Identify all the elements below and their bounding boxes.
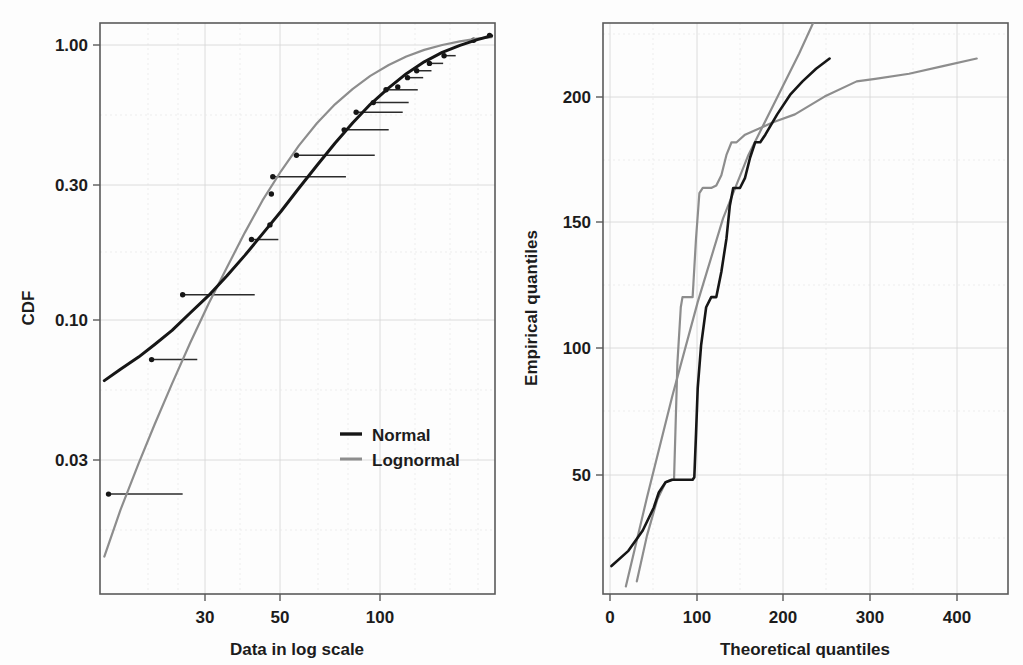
qq-ytick-1: 200 xyxy=(563,88,591,107)
ecdf-point xyxy=(270,174,275,179)
cdf-legend: Normal Lognormal xyxy=(340,426,460,470)
cdf-plot-frame xyxy=(100,23,495,594)
cdf-xtick-2: 50 xyxy=(271,608,290,627)
qq-xtick-4: 300 xyxy=(856,608,884,627)
cdf-yaxis-title: CDF xyxy=(19,291,38,326)
cdf-ytick-3: 0.10 xyxy=(55,311,88,330)
qq-ytick-2: 150 xyxy=(563,213,591,232)
qq-ytick-3: 100 xyxy=(563,339,591,358)
ecdf-point xyxy=(269,191,274,196)
qq-yaxis-title: Empirical quantiles xyxy=(522,230,541,386)
cdf-normal-curve xyxy=(104,36,491,381)
cdf-empirical-steps xyxy=(106,33,492,497)
legend-label-lognormal: Lognormal xyxy=(372,451,460,470)
cdf-minor-gridlines xyxy=(148,23,478,594)
qq-ytick-4: 50 xyxy=(572,466,591,485)
cdf-plot-svg: 1.00 0.30 0.10 0.03 30 50 100 Data in lo… xyxy=(0,0,511,665)
cdf-lognormal-curve xyxy=(104,37,491,556)
ecdf-point xyxy=(353,110,358,115)
legend-label-normal: Normal xyxy=(372,426,431,445)
qq-xtick-5: 400 xyxy=(943,608,971,627)
ecdf-point xyxy=(180,292,185,297)
cdf-ytick-2: 0.30 xyxy=(55,176,88,195)
cdf-y-tickmarks xyxy=(93,45,100,460)
cdf-x-tickmarks xyxy=(205,594,380,601)
qq-y-tickmarks xyxy=(596,97,603,475)
cdf-ytick-4: 0.03 xyxy=(55,451,88,470)
cdf-xtick-1: 30 xyxy=(196,608,215,627)
cdf-xaxis-title: Data in log scale xyxy=(230,640,364,659)
qq-lognormal-curve xyxy=(637,59,977,582)
figure-container: 1.00 0.30 0.10 0.03 30 50 100 Data in lo… xyxy=(0,0,1023,665)
qq-normal-curve xyxy=(611,59,829,567)
ecdf-point xyxy=(106,491,111,496)
ecdf-point xyxy=(395,84,400,89)
ecdf-point xyxy=(249,237,254,242)
panel-qq: 200 150 100 50 0 100 200 300 400 Theoret… xyxy=(511,0,1023,665)
qq-xtick-1: 0 xyxy=(605,608,614,627)
qq-xtick-3: 200 xyxy=(769,608,797,627)
cdf-ytick-1: 1.00 xyxy=(55,36,88,55)
cdf-xtick-3: 100 xyxy=(366,608,394,627)
panel-cdf-log: 1.00 0.30 0.10 0.03 30 50 100 Data in lo… xyxy=(0,0,511,665)
ecdf-point xyxy=(149,357,154,362)
qq-x-tickmarks xyxy=(610,594,957,601)
qq-xtick-2: 100 xyxy=(683,608,711,627)
qq-xaxis-title: Theoretical quantiles xyxy=(720,640,890,659)
cdf-major-gridlines xyxy=(100,23,495,594)
qq-plot-svg: 200 150 100 50 0 100 200 300 400 Theoret… xyxy=(511,0,1023,665)
